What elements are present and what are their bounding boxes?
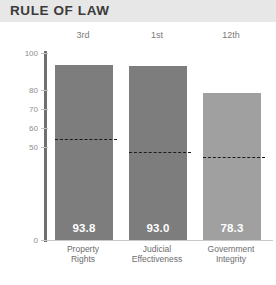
category-label-government-integrity-line2: Integrity [194, 254, 268, 264]
category-label-property-rights: Property Rights [46, 244, 120, 264]
bar-property-rights[interactable]: 93.8 [55, 65, 113, 240]
category-label-property-rights-line2: Rights [46, 254, 120, 264]
chart-plot-area: 3rd 1st 12th 100 80 70 60 50 0 [0, 22, 276, 285]
y-tick-0: 0 [10, 236, 38, 245]
reference-line-property-rights [55, 139, 117, 140]
y-tick-50: 50 [10, 143, 38, 152]
y-tick-70-label: 70 [29, 105, 38, 114]
y-tick-0-label: 0 [34, 236, 38, 245]
bar-judicial-effectiveness[interactable]: 93.0 [129, 66, 187, 240]
reference-line-government-integrity [203, 157, 265, 158]
y-tick-100: 100 [10, 49, 38, 58]
bar-government-integrity[interactable]: 78.3 [203, 93, 261, 240]
y-tick-60: 60 [10, 124, 38, 133]
rule-of-law-chart-panel: RULE OF LAW 3rd 1st 12th 100 80 70 60 5 [0, 0, 276, 285]
y-tick-50-label: 50 [29, 143, 38, 152]
y-tick-80: 80 [10, 86, 38, 95]
bar-value-property-rights: 93.8 [55, 222, 113, 235]
category-label-judicial-effectiveness-line1: Judicial [120, 244, 194, 254]
bar-value-judicial-effectiveness: 93.0 [129, 222, 187, 235]
category-label-government-integrity-line1: Government [194, 244, 268, 254]
y-tick-60-label: 60 [29, 124, 38, 133]
category-label-judicial-effectiveness: Judicial Effectiveness [120, 244, 194, 264]
y-tick-80-label: 80 [29, 86, 38, 95]
y-tick-100-label: 100 [25, 49, 38, 58]
bar-value-government-integrity: 78.3 [203, 222, 261, 235]
category-label-government-integrity: Government Integrity [194, 244, 268, 264]
y-tick-70: 70 [10, 105, 38, 114]
reference-line-judicial-effectiveness [129, 152, 191, 153]
category-label-property-rights-line1: Property [46, 244, 120, 254]
category-label-judicial-effectiveness-line2: Effectiveness [120, 254, 194, 264]
chart-header-band: RULE OF LAW [0, 0, 276, 22]
page-title: RULE OF LAW [10, 3, 110, 19]
